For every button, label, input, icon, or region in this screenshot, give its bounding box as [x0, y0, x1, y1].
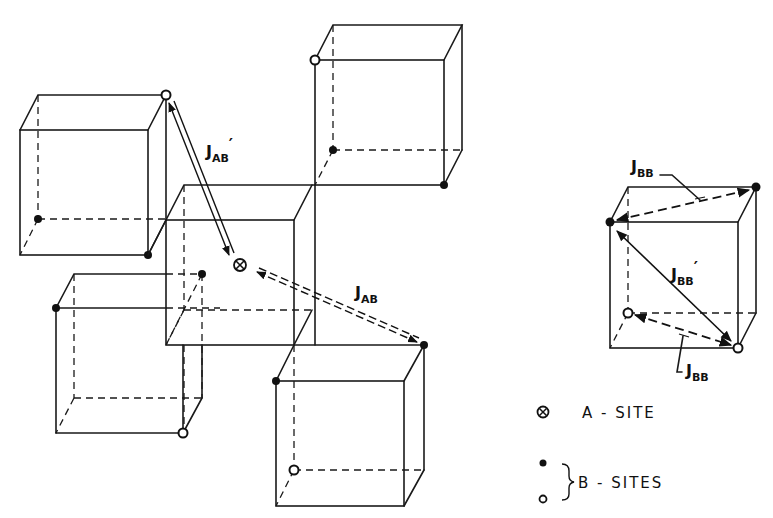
b-site-filled: [606, 218, 615, 227]
label-jbb-bottom: JBB: [685, 361, 709, 384]
legend-brace-icon: [562, 464, 574, 500]
legend-filled-circle-icon: [540, 460, 547, 467]
cube-right-bb: [610, 187, 756, 348]
arrow-jbb-top: [617, 190, 749, 220]
b-site-open: [734, 344, 743, 353]
b-site-filled: [420, 341, 428, 349]
label-jab: JAB: [354, 283, 378, 306]
b-site-filled: [34, 215, 42, 223]
a-site-marker: [234, 259, 246, 271]
b-site-filled: [198, 270, 206, 278]
arrow-jbb-prime: [617, 231, 731, 341]
cube-lower-left: [52, 270, 220, 433]
b-site-filled: [752, 183, 761, 192]
cube-center: [148, 185, 315, 345]
leader-jbb-bottom: [677, 336, 683, 372]
label-jbb-top: JBB: [630, 157, 654, 180]
leader-tick-bottom: [679, 334, 689, 337]
label-jbb-prime: JBB′: [670, 258, 698, 288]
legend-b-sites-label: B - SITES: [578, 474, 663, 492]
b-site-open: [179, 429, 188, 438]
cube-upper-left: [20, 95, 166, 259]
b-site-open: [162, 91, 171, 100]
arrow-jab: [257, 268, 419, 342]
b-site-open: [311, 56, 320, 65]
lattice-diagram: JAB′ JAB JBB′ JBB JBB A - SITE B - SITES: [0, 0, 773, 518]
b-site-open: [624, 309, 633, 318]
legend: A - SITE B - SITES: [538, 404, 664, 503]
legend-a-site-label: A - SITE: [582, 404, 656, 422]
b-site-filled: [52, 304, 60, 312]
b-site-filled: [329, 146, 337, 154]
b-site-filled: [440, 181, 448, 189]
b-site-open: [290, 466, 299, 475]
legend-a-site-icon: [538, 407, 549, 418]
cube-lower-right: [272, 341, 428, 506]
legend-open-circle-icon: [540, 496, 547, 503]
arrow-jab-prime: [169, 101, 234, 255]
cube-top-right: [315, 25, 462, 189]
b-site-filled: [272, 377, 280, 385]
label-jab-prime: JAB′: [205, 135, 233, 165]
